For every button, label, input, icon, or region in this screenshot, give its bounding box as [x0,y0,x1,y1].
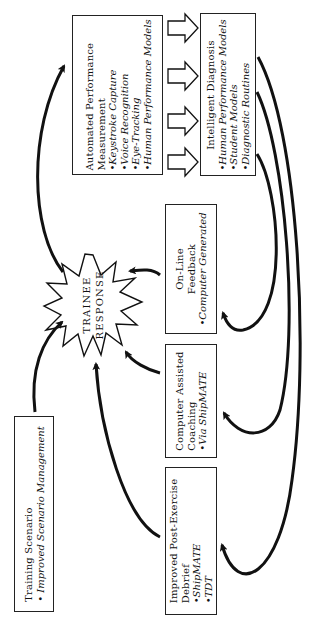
block-arrow-icon [168,107,198,135]
automated-title-2: Measurement [95,19,107,170]
arrow-debrief-to-response [96,364,160,537]
block-arrows [168,14,198,176]
scenario-bullet: • Improved Scenario Management [34,426,46,602]
debrief-title-2: Debrief [180,479,192,604]
block-arrow-icon [168,62,198,90]
feedback-title-2: Feedback [185,212,197,325]
automated-performance-measurement-box: Automated Performance Measurement •Keyst… [72,15,163,175]
automated-bullet: •Keystroke Capture [106,19,118,170]
trainee-label: TRAINEE [80,270,93,339]
trainee-response-label: TRAINEE RESPONSE [80,270,106,339]
arrow-coaching-to-response [126,352,160,373]
diagnosis-bullet: •Human Performance Models [217,19,229,170]
arrow-feedback-to-response [130,270,160,275]
computer-assisted-coaching-box: Computer Assisted Coaching •Via ShipMATE [165,344,217,458]
debrief-bullet: •ShipMATE [191,479,203,604]
automated-bullet: •Human Performance Models [141,19,153,170]
feedback-title-1: On-Line [174,212,186,325]
debrief-bullet: •TDT [203,479,215,604]
coaching-title-1: Computer Assisted [174,351,186,450]
training-scenario-box: Training Scenario • Improved Scenario Ma… [14,416,54,612]
block-arrow-icon [168,148,198,176]
coaching-bullet: •Via ShipMATE [197,351,209,450]
arrow-response-to-automated [38,66,64,272]
automated-bullet: •Voice Recognition [118,19,130,170]
block-arrow-icon [168,14,198,42]
diagnosis-title: Intelligent Diagnosis [205,19,217,170]
diagnosis-bullet: •Diagnostic Routines [240,19,252,170]
automated-bullet: •Eye-Tracking [129,19,141,170]
coaching-title-2: Coaching [185,351,197,450]
feedback-bullet: •Computer Generated [197,212,209,325]
diagnosis-bullet: •Student Models [228,19,240,170]
debrief-title-1: Improved Post-Exercise [168,479,180,604]
intelligent-diagnosis-box: Intelligent Diagnosis •Human Performance… [200,13,256,176]
arrow-diagnosis-to-feedback [223,154,276,330]
post-exercise-debrief-box: Improved Post-Exercise Debrief •ShipMATE… [165,467,217,615]
response-label: RESPONSE [93,270,106,339]
automated-title-1: Automated Performance [83,19,95,170]
scenario-title: Training Scenario [23,426,35,602]
online-feedback-box: On-Line Feedback •Computer Generated [165,204,217,334]
arrow-scenario-to-response [34,322,62,412]
